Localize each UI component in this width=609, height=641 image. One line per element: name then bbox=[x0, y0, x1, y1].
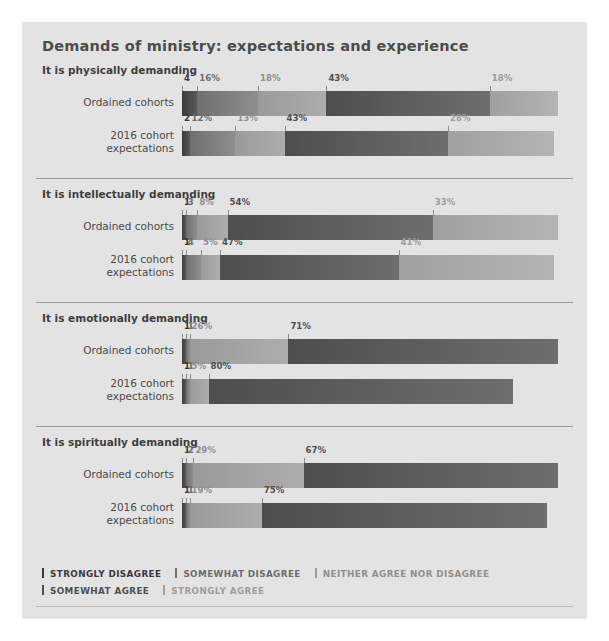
legend-label: SOMEWHAT DISAGREE bbox=[183, 569, 300, 579]
value-label: 8% bbox=[199, 197, 214, 207]
legend-divider bbox=[36, 606, 573, 607]
value-label: 47% bbox=[222, 237, 243, 247]
value-label: 4 bbox=[184, 73, 190, 83]
section-heading: It is physically demanding bbox=[42, 64, 197, 76]
value-label: 43% bbox=[328, 73, 349, 83]
row-label: Ordained cohorts bbox=[22, 220, 174, 233]
value-label: 2 bbox=[184, 113, 190, 123]
legend-swatch-icon bbox=[42, 585, 44, 595]
legend-item[interactable]: SOMEWHAT AGREE bbox=[42, 585, 149, 596]
legend-item[interactable]: NEITHER AGREE NOR DISAGREE bbox=[315, 568, 490, 579]
legend-row-1: STRONGLY DISAGREESOMEWHAT DISAGREENEITHE… bbox=[42, 562, 503, 578]
legend-label: SOMEWHAT AGREE bbox=[50, 586, 149, 596]
row-label: 2016 cohortexpectations bbox=[22, 501, 174, 526]
legend-item[interactable]: STRONGLY DISAGREE bbox=[42, 568, 161, 579]
legend-item[interactable]: STRONGLY AGREE bbox=[163, 585, 264, 596]
stacked-bar bbox=[182, 255, 562, 280]
value-label: 75% bbox=[264, 485, 285, 495]
value-label: 13% bbox=[237, 113, 258, 123]
value-label: 28% bbox=[450, 113, 471, 123]
legend-item[interactable]: SOMEWHAT DISAGREE bbox=[175, 568, 300, 579]
value-label: 54% bbox=[230, 197, 251, 207]
chart-section: It is spiritually demandingOrdained coho… bbox=[22, 426, 587, 538]
section-divider bbox=[36, 302, 573, 303]
value-label: 16% bbox=[199, 73, 220, 83]
legend-swatch-icon bbox=[42, 568, 44, 578]
legend-label: STRONGLY DISAGREE bbox=[50, 569, 161, 579]
value-label: 41% bbox=[401, 237, 422, 247]
chart-row: 2016 cohortexpectations1119%75% bbox=[22, 498, 587, 532]
value-label: 18% bbox=[492, 73, 513, 83]
chart-row: 2016 cohortexpectations145%47%41% bbox=[22, 250, 587, 284]
section-heading: It is spiritually demanding bbox=[42, 436, 198, 448]
bar-segment bbox=[190, 379, 209, 404]
value-label: 67% bbox=[306, 445, 327, 455]
value-label: 80% bbox=[211, 361, 232, 371]
value-label: 26% bbox=[192, 321, 213, 331]
chart-card: Demands of ministry: expectations and ex… bbox=[22, 22, 587, 619]
stacked-bar bbox=[182, 503, 562, 528]
page-title: Demands of ministry: expectations and ex… bbox=[42, 38, 469, 54]
bar-segment bbox=[190, 503, 262, 528]
bar-segment bbox=[209, 379, 513, 404]
section-divider bbox=[36, 426, 573, 427]
value-label: 33% bbox=[435, 197, 456, 207]
bar-segment bbox=[448, 131, 554, 156]
chart-section: It is emotionally demandingOrdained coho… bbox=[22, 302, 587, 414]
bar-segment bbox=[220, 255, 399, 280]
chart-section: It is physically demandingOrdained cohor… bbox=[22, 64, 587, 166]
value-label: 18% bbox=[260, 73, 281, 83]
bar-segment bbox=[235, 131, 284, 156]
row-label: 2016 cohortexpectations bbox=[22, 129, 174, 154]
value-label: 29% bbox=[195, 445, 216, 455]
value-label: 43% bbox=[287, 113, 308, 123]
legend-swatch-icon bbox=[175, 568, 177, 578]
bar-segment bbox=[182, 131, 190, 156]
legend-row-2: SOMEWHAT AGREESTRONGLY AGREE bbox=[42, 579, 279, 595]
legend-swatch-icon bbox=[163, 585, 165, 595]
bar-segment bbox=[262, 503, 547, 528]
bar-segment bbox=[399, 255, 555, 280]
value-label: 2 bbox=[188, 445, 194, 455]
value-label: 19% bbox=[192, 485, 213, 495]
legend-label: NEITHER AGREE NOR DISAGREE bbox=[323, 569, 490, 579]
row-label: Ordained cohorts bbox=[22, 96, 174, 109]
row-label: 2016 cohortexpectations bbox=[22, 253, 174, 278]
chart-row: 2016 cohortexpectations115%80% bbox=[22, 374, 587, 408]
row-label: Ordained cohorts bbox=[22, 344, 174, 357]
value-label: 71% bbox=[290, 321, 311, 331]
row-label: Ordained cohorts bbox=[22, 468, 174, 481]
value-label: 12% bbox=[192, 113, 213, 123]
chart-section: It is intellectually demandingOrdained c… bbox=[22, 178, 587, 290]
value-label: 5% bbox=[192, 361, 207, 371]
stacked-bar bbox=[182, 131, 562, 156]
value-label: 3 bbox=[188, 197, 194, 207]
chart-row: 2016 cohortexpectations212%13%43%28% bbox=[22, 126, 587, 160]
legend-swatch-icon bbox=[315, 568, 317, 578]
bar-segment bbox=[285, 131, 448, 156]
bar-segment bbox=[186, 255, 201, 280]
legend-label: STRONGLY AGREE bbox=[171, 586, 264, 596]
bar-segment bbox=[190, 131, 236, 156]
value-label: 5% bbox=[203, 237, 218, 247]
stacked-bar bbox=[182, 379, 562, 404]
bar-segment bbox=[201, 255, 220, 280]
value-label: 4 bbox=[188, 237, 194, 247]
section-divider bbox=[36, 178, 573, 179]
row-label: 2016 cohortexpectations bbox=[22, 377, 174, 402]
